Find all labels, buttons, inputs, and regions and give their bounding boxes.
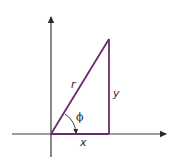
label-y: y — [112, 87, 120, 100]
label-phi: ϕ — [76, 111, 84, 124]
polar-coordinates-diagram: r y ϕ x — [0, 0, 181, 164]
label-r: r — [71, 78, 77, 91]
label-x: x — [79, 136, 87, 149]
angle-arc — [65, 114, 76, 133]
